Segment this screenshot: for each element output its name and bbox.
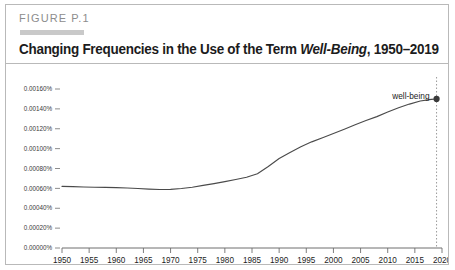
figure-number-label: FIGURE P.1 [19, 12, 90, 24]
y-axis-tick-label: 0.00040% [24, 204, 53, 211]
x-axis-tick-label: 1950 [53, 256, 72, 264]
figure-title: Changing Frequencies in the Use of the T… [19, 41, 439, 57]
x-axis-tick-label: 1955 [80, 256, 99, 264]
y-axis-tick-label: 0.00120% [24, 125, 53, 132]
series-annotation-label: well-being [391, 91, 430, 101]
x-axis-tick-label: 2000 [324, 256, 343, 264]
y-axis-tick-label: 0.00140% [24, 105, 53, 112]
x-axis-tick-label: 1995 [297, 256, 316, 264]
figure-accent-bar [20, 30, 84, 35]
x-axis-tick-label: 2020 [433, 256, 448, 264]
y-axis-tick-label: 0.00100% [24, 145, 53, 152]
figure-container: FIGURE P.1 Changing Frequencies in the U… [5, 4, 449, 265]
y-axis-tick-label: 0.00160% [24, 85, 53, 92]
y-axis-tick-label: 0.00020% [24, 224, 53, 231]
x-axis-tick-label: 1985 [243, 256, 262, 264]
x-axis-tick-label: 2005 [351, 256, 370, 264]
x-axis-tick-label: 1980 [216, 256, 235, 264]
endpoint-marker [433, 96, 439, 102]
x-axis-tick-label: 1965 [134, 256, 153, 264]
y-axis-tick-label: 0.00000% [24, 244, 53, 251]
chart-plot-area: 0.00000%0.00020%0.00040%0.00060%0.00080%… [6, 64, 448, 264]
x-axis-tick-label: 1960 [107, 256, 126, 264]
y-axis-tick-label: 0.00060% [24, 185, 53, 192]
x-axis-tick-label: 1975 [189, 256, 208, 264]
figure-title-term: Well-Being [300, 41, 367, 57]
x-axis-tick-label: 2015 [406, 256, 425, 264]
y-axis-tick-label: 0.00080% [24, 165, 53, 172]
x-axis-tick-label: 1990 [270, 256, 289, 264]
x-axis-tick-label: 2010 [379, 256, 398, 264]
figure-title-suffix: , 1950–2019 [367, 41, 439, 57]
line-chart: 0.00000%0.00020%0.00040%0.00060%0.00080%… [6, 64, 448, 264]
figure-title-prefix: Changing Frequencies in the Use of the T… [19, 41, 300, 57]
data-line-well-being [62, 99, 437, 190]
x-axis-tick-label: 1970 [161, 256, 180, 264]
